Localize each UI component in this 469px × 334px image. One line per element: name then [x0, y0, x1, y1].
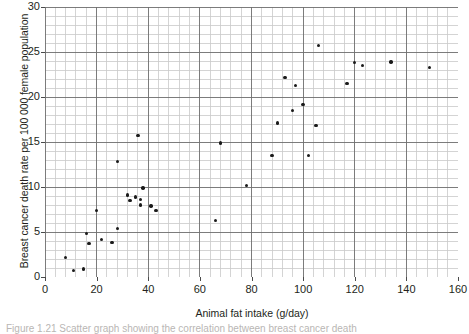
data-point: [291, 109, 294, 112]
data-point: [139, 198, 142, 201]
x-axis-tick-label: 120: [340, 283, 370, 295]
data-point: [139, 203, 142, 206]
data-point: [276, 121, 279, 124]
data-point: [116, 227, 119, 230]
data-point: [72, 269, 75, 272]
data-point: [87, 242, 90, 245]
data-point: [361, 64, 364, 67]
x-axis-tick-mark: [355, 277, 356, 281]
data-point: [389, 60, 392, 63]
data-point: [283, 76, 286, 79]
data-point: [128, 199, 131, 202]
x-axis-tick-label: 160: [443, 283, 469, 295]
figure-caption: Figure 1.21 Scatter graph showing the co…: [6, 323, 469, 334]
x-axis-tick-label: 60: [185, 283, 215, 295]
data-point: [116, 160, 119, 163]
data-point: [82, 267, 85, 270]
data-point: [294, 84, 297, 87]
x-axis-tick-mark: [200, 277, 201, 281]
data-point: [154, 209, 157, 212]
x-axis-tick-mark: [97, 277, 98, 281]
y-axis-tick-label: 25: [14, 45, 40, 57]
data-point: [428, 66, 431, 69]
data-point: [100, 238, 103, 241]
data-point: [345, 82, 348, 85]
x-axis-tick-label: 80: [237, 283, 267, 295]
data-point: [134, 195, 137, 198]
data-point: [214, 219, 217, 222]
y-axis-tick-label: 20: [14, 90, 40, 102]
x-axis-tick-mark: [458, 277, 459, 281]
data-point: [301, 103, 304, 106]
x-axis-tick-mark: [148, 277, 149, 281]
x-axis-tick-mark: [406, 277, 407, 281]
plot-area: [45, 7, 458, 277]
x-axis-tick-label: 20: [82, 283, 112, 295]
data-point-layer: [45, 7, 458, 277]
x-axis-label: Animal fat intake (g/day): [45, 307, 459, 319]
x-axis-tick-label: 140: [391, 283, 421, 295]
data-point: [141, 186, 144, 189]
data-point: [317, 44, 320, 47]
data-point: [219, 141, 222, 144]
data-point: [126, 193, 129, 196]
data-point: [353, 61, 356, 64]
data-point: [95, 209, 98, 212]
x-axis-tick-label: 100: [288, 283, 318, 295]
data-point: [270, 154, 273, 157]
data-point: [64, 256, 67, 259]
y-axis-tick-label: 5: [14, 225, 40, 237]
data-point: [85, 232, 88, 235]
y-axis-tick-label: 30: [14, 0, 40, 12]
x-axis-tick-label: 0: [30, 283, 60, 295]
x-axis-tick-mark: [303, 277, 304, 281]
data-point: [314, 124, 317, 127]
x-axis-tick-mark: [252, 277, 253, 281]
x-axis-tick-label: 40: [133, 283, 163, 295]
y-axis-tick-label: 10: [14, 180, 40, 192]
data-point: [110, 241, 113, 244]
data-point: [149, 204, 152, 207]
x-axis-tick-mark: [45, 277, 46, 281]
data-point: [245, 184, 248, 187]
y-axis-tick-label: 15: [14, 135, 40, 147]
data-point: [136, 134, 139, 137]
y-axis-tick-label: 0: [14, 270, 40, 282]
data-point: [307, 154, 310, 157]
